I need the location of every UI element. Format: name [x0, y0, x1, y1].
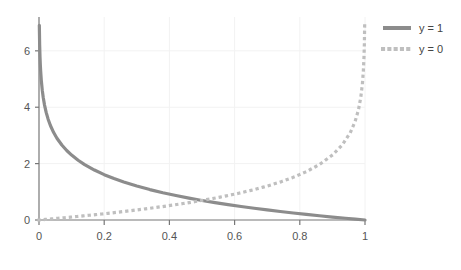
chart-figure: 0246 00.20.40.60.81 y = 1 y = 0: [0, 0, 461, 270]
x-tick-label: 0.2: [97, 230, 112, 242]
x-tick-label: 0: [36, 230, 42, 242]
y-tick-label: 4: [24, 101, 30, 113]
x-tick-label: 0.8: [292, 230, 307, 242]
legend-label-y-equals-1: y = 1: [419, 22, 443, 34]
legend-label-y-equals-0: y = 0: [419, 43, 443, 55]
y-tick-label: 2: [24, 158, 30, 170]
y-tick-label: 0: [24, 214, 30, 226]
x-tick-label: 0.4: [162, 230, 177, 242]
y-tick-label: 6: [24, 45, 30, 57]
x-tick-label: 0.6: [227, 230, 242, 242]
x-tick-label: 1: [362, 230, 368, 242]
log-loss-line-chart: 0246 00.20.40.60.81 y = 1 y = 0: [0, 0, 461, 270]
